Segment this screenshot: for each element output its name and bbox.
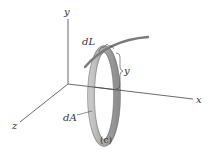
z-axis-label: z [11,120,18,131]
diagram-canvas: y x z dL y dA (c) [0,0,215,156]
x-axis-line [68,84,193,99]
coordinate-axes [20,19,193,122]
y-axis-label: y [63,6,70,17]
dA-label: dA [63,112,77,123]
x-axis-label: x [196,94,202,105]
figure-caption: (c) [100,135,112,145]
z-axis-line [20,84,68,122]
dL-label: dL [82,36,95,47]
y-distance-label: y [123,65,130,76]
